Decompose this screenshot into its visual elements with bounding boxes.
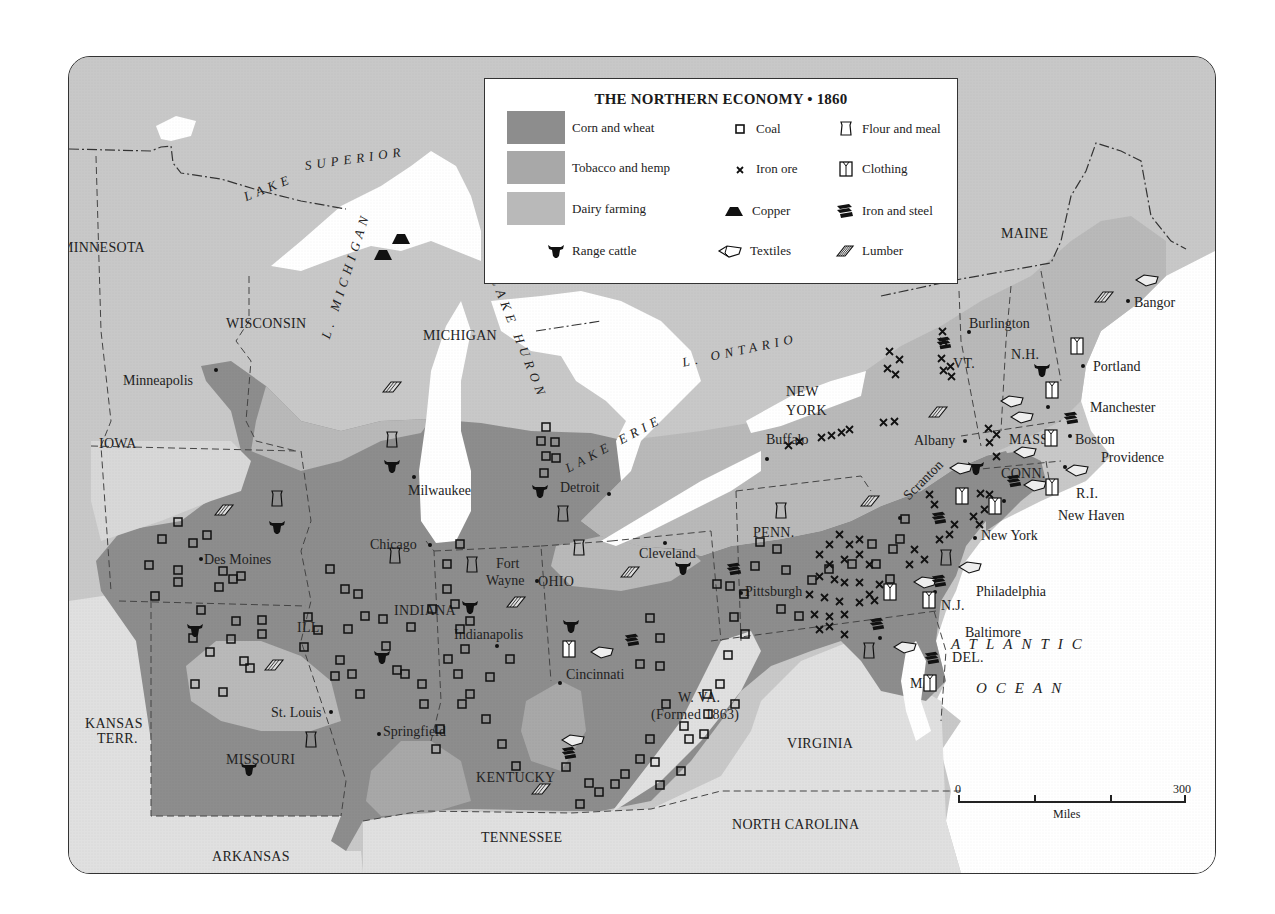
city-dot-marker bbox=[607, 492, 611, 496]
coal-square-icon bbox=[188, 534, 198, 552]
coal-square-icon bbox=[781, 561, 791, 579]
coal-square-icon bbox=[236, 567, 246, 585]
textiles-bolt-icon bbox=[1135, 273, 1159, 291]
coal-square-icon bbox=[655, 657, 665, 675]
cattle-icon bbox=[240, 761, 258, 781]
clothing-shirt-icon bbox=[837, 161, 855, 177]
cattle-icon bbox=[531, 483, 549, 503]
lake-label: SUPERIOR bbox=[304, 145, 406, 172]
legend-label: Clothing bbox=[862, 161, 908, 177]
iron-ore-x-icon bbox=[825, 535, 834, 553]
coal-square-icon bbox=[679, 717, 689, 735]
city-label: Pittsburgh bbox=[745, 585, 802, 599]
coal-square-icon bbox=[867, 535, 877, 553]
clothing-shirt-icon bbox=[1045, 478, 1059, 500]
coal-square-icon bbox=[360, 607, 370, 625]
coal-square-icon bbox=[620, 765, 630, 783]
lumber-boards-icon bbox=[505, 595, 527, 613]
coal-square-icon bbox=[730, 695, 740, 713]
coal-square-icon bbox=[561, 758, 571, 776]
coal-square-icon bbox=[725, 577, 735, 595]
city-dot-marker bbox=[1081, 364, 1085, 368]
dairy-farming-swatch bbox=[507, 192, 565, 225]
textiles-bolt-icon bbox=[958, 560, 982, 578]
city-label: Scranton bbox=[901, 458, 946, 503]
legend-corn-and-wheat: Corn and wheat bbox=[507, 111, 654, 144]
iron-ore-x-icon bbox=[855, 573, 864, 591]
coal-square-icon bbox=[450, 595, 460, 613]
city-label: Albany bbox=[914, 434, 955, 448]
clothing-shirt-icon bbox=[1044, 429, 1058, 451]
iron-ore-x-icon bbox=[815, 567, 824, 585]
state-label: N.J. bbox=[941, 599, 965, 613]
coal-square-icon bbox=[551, 449, 561, 467]
city-label: Providence bbox=[1101, 451, 1164, 465]
iron-ore-x-icon bbox=[805, 585, 814, 603]
coal-square-icon bbox=[900, 510, 910, 528]
state-label: VIRGINIA bbox=[787, 737, 853, 751]
iron-ore-x-icon bbox=[925, 485, 934, 503]
iron-ore-x-icon bbox=[784, 436, 793, 454]
coal-square-icon bbox=[378, 610, 388, 628]
lake-label: L. ONTARIO bbox=[681, 332, 799, 369]
iron-ore-x-icon bbox=[870, 591, 879, 609]
clothing-shirt-icon bbox=[1045, 381, 1059, 403]
iron-ore-x-icon bbox=[827, 426, 836, 444]
iron-ore-x-icon bbox=[840, 625, 849, 643]
coal-square-icon bbox=[150, 587, 160, 605]
iron-ore-x-icon bbox=[865, 555, 874, 573]
cattle-icon bbox=[383, 458, 401, 478]
city-label: Philadelphia bbox=[976, 585, 1046, 599]
coal-square-icon bbox=[299, 638, 309, 656]
coal-square-icon bbox=[676, 762, 686, 780]
coal-square-icon bbox=[703, 705, 713, 723]
coal-square-icon bbox=[202, 526, 212, 544]
textiles-bolt-icon bbox=[1065, 463, 1089, 481]
flour-sack-icon bbox=[572, 539, 586, 561]
legend-label: Range cattle bbox=[572, 243, 637, 259]
city-label: Boston bbox=[1075, 433, 1115, 447]
iron-ore-x-icon bbox=[820, 588, 829, 606]
city-dot-marker bbox=[377, 732, 381, 736]
coal-square-icon bbox=[457, 695, 467, 713]
legend-label: Corn and wheat bbox=[572, 120, 654, 136]
city-dot-marker bbox=[214, 368, 218, 372]
clothing-shirt-icon bbox=[562, 640, 576, 662]
copper-trapezoid-icon bbox=[723, 203, 745, 219]
legend-label: Copper bbox=[752, 203, 790, 219]
coal-square-icon bbox=[635, 655, 645, 673]
coal-square-icon bbox=[218, 683, 228, 701]
legend-textiles: Textiles bbox=[717, 243, 791, 259]
city-dot-marker bbox=[663, 541, 667, 545]
iron-ore-x-icon bbox=[992, 447, 1001, 465]
iron-ore-x-icon bbox=[845, 420, 854, 438]
coal-square-icon bbox=[645, 730, 655, 748]
city-dot-marker bbox=[558, 681, 562, 685]
coal-square-icon bbox=[157, 530, 167, 548]
coal-square-icon bbox=[231, 612, 241, 630]
city-dot-marker bbox=[973, 536, 977, 540]
state-label: OHIO bbox=[538, 575, 574, 589]
legend-label: Textiles bbox=[750, 243, 791, 259]
lumber-boards-icon bbox=[835, 243, 855, 259]
coal-square-icon bbox=[635, 750, 645, 768]
coal-square-icon bbox=[205, 643, 215, 661]
textiles-bolt-icon bbox=[717, 243, 743, 259]
coal-square-icon bbox=[712, 575, 722, 593]
flour-sack-icon bbox=[304, 731, 318, 753]
coal-square-icon bbox=[313, 621, 323, 639]
city-label: Wayne bbox=[486, 574, 525, 588]
city-label: New Haven bbox=[1058, 509, 1124, 523]
state-label: MAINE bbox=[1001, 227, 1048, 241]
iron-ore-x-icon bbox=[840, 605, 849, 623]
state-label: TENNESSEE bbox=[481, 831, 562, 845]
coal-square-icon bbox=[731, 121, 749, 137]
coal-square-icon bbox=[303, 608, 313, 626]
lumber-boards-icon bbox=[263, 658, 285, 676]
clothing-shirt-icon bbox=[955, 487, 969, 509]
coal-square-icon bbox=[245, 659, 255, 677]
coal-square-icon bbox=[214, 578, 224, 596]
flour-sack-icon bbox=[862, 642, 876, 664]
legend-label: Iron ore bbox=[756, 161, 798, 177]
coal-square-icon bbox=[739, 585, 749, 603]
